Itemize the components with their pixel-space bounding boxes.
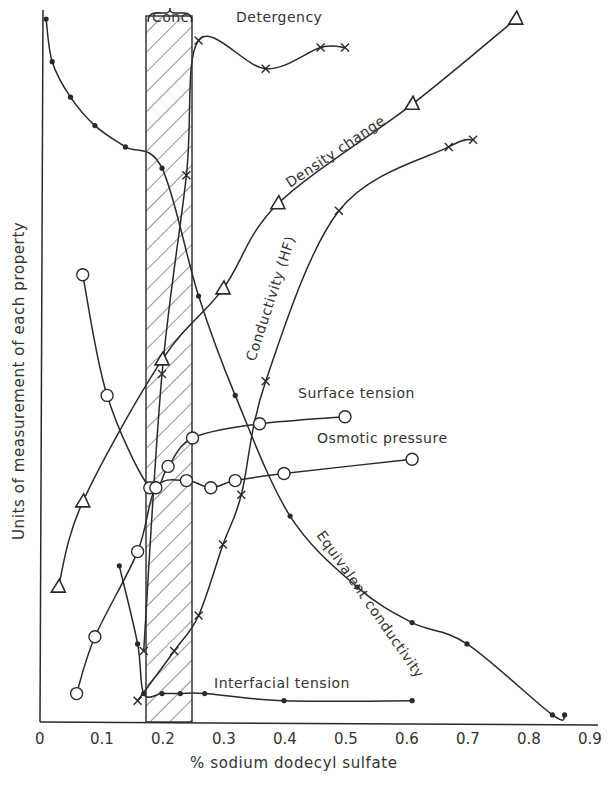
curve-surface-tension <box>83 275 345 491</box>
marker-osmotic-pressure <box>89 631 101 643</box>
marker-equivalent-conductivity <box>562 712 567 717</box>
marker-osmotic-pressure <box>229 475 241 487</box>
marker-conductivity-hf <box>219 541 227 549</box>
marker-interfacial-tension <box>159 691 164 696</box>
marker-detergency <box>195 36 203 44</box>
curve-density-change <box>58 19 516 587</box>
marker-equivalent-conductivity <box>50 59 55 64</box>
marker-interfacial-tension <box>135 641 140 646</box>
marker-equivalent-conductivity <box>92 123 97 128</box>
curve-equivalent-conductivity <box>46 19 565 720</box>
marker-osmotic-pressure <box>180 475 192 487</box>
marker-density-change <box>271 196 285 209</box>
marker-equivalent-conductivity <box>123 144 128 149</box>
label-density-change: Density change <box>283 112 388 190</box>
x-axis-title: % sodium dodecyl sulfate <box>190 754 398 772</box>
label-equivalent-conductivity: Equivalent conductivity <box>314 528 428 681</box>
x-tick-label: 0.7 <box>456 730 480 748</box>
marker-equivalent-conductivity <box>68 95 73 100</box>
marker-osmotic-pressure <box>406 453 418 465</box>
marker-osmotic-pressure <box>278 468 290 480</box>
marker-surface-tension <box>254 418 266 430</box>
x-axis <box>40 722 598 725</box>
marker-osmotic-pressure <box>150 482 162 494</box>
marker-equivalent-conductivity <box>288 514 293 519</box>
x-tick-label: 0.8 <box>517 730 541 748</box>
marker-surface-tension <box>339 411 351 423</box>
chart-svg: Conc. 00.10.20.30.40.50.60.70.80.9 % sod… <box>0 0 610 786</box>
x-tick-label: 0 <box>35 730 45 748</box>
x-tick-label: 0.1 <box>90 730 114 748</box>
marker-equivalent-conductivity <box>196 293 201 298</box>
marker-conductivity-hf <box>335 207 343 215</box>
marker-equivalent-conductivity <box>233 393 238 398</box>
marker-equivalent-conductivity <box>410 620 415 625</box>
marker-conductivity-hf <box>134 697 142 705</box>
marker-density-change <box>76 494 90 507</box>
marker-conductivity-hf <box>262 377 270 385</box>
data-markers <box>44 11 568 717</box>
x-tick-label: 0.5 <box>334 730 358 748</box>
x-tick-label: 0.4 <box>273 730 297 748</box>
marker-surface-tension <box>77 269 89 281</box>
marker-osmotic-pressure <box>71 688 83 700</box>
conc-label: Conc. <box>152 9 194 25</box>
marker-equivalent-conductivity <box>44 17 49 22</box>
label-conductivity-hf: Conductivity (HF) <box>243 234 299 363</box>
marker-surface-tension <box>162 460 174 472</box>
marker-density-change <box>51 579 65 592</box>
marker-conductivity-hf <box>445 143 453 151</box>
marker-interfacial-tension <box>117 563 122 568</box>
y-axis-title: Units of measurement of each property <box>10 222 28 540</box>
marker-conductivity-hf <box>195 612 203 620</box>
y-axis <box>40 10 43 722</box>
marker-equivalent-conductivity <box>550 712 555 717</box>
chart-container: Conc. 00.10.20.30.40.50.60.70.80.9 % sod… <box>0 0 610 786</box>
label-surface-tension: Surface tension <box>298 385 415 401</box>
marker-density-change <box>509 11 523 24</box>
marker-osmotic-pressure <box>205 482 217 494</box>
marker-interfacial-tension <box>410 698 415 703</box>
curves <box>46 19 565 720</box>
x-tick-label: 0.3 <box>212 730 236 748</box>
marker-interfacial-tension <box>281 698 286 703</box>
marker-equivalent-conductivity <box>159 166 164 171</box>
x-tick-labels: 00.10.20.30.40.50.60.70.80.9 <box>35 730 602 748</box>
marker-interfacial-tension <box>141 691 146 696</box>
marker-osmotic-pressure <box>132 546 144 558</box>
marker-equivalent-conductivity <box>464 641 469 646</box>
x-tick-label: 0.9 <box>578 730 602 748</box>
x-tick-label: 0.2 <box>151 730 175 748</box>
label-interfacial-tension: Interfacial tension <box>214 675 350 691</box>
marker-interfacial-tension <box>202 691 207 696</box>
marker-interfacial-tension <box>178 691 183 696</box>
marker-surface-tension <box>187 432 199 444</box>
marker-density-change <box>405 96 419 109</box>
label-osmotic-pressure: Osmotic pressure <box>317 430 448 446</box>
x-tick-label: 0.6 <box>395 730 419 748</box>
label-detergency: Detergency <box>236 9 322 25</box>
cmc-hatched-band <box>146 16 192 722</box>
marker-surface-tension <box>101 389 113 401</box>
